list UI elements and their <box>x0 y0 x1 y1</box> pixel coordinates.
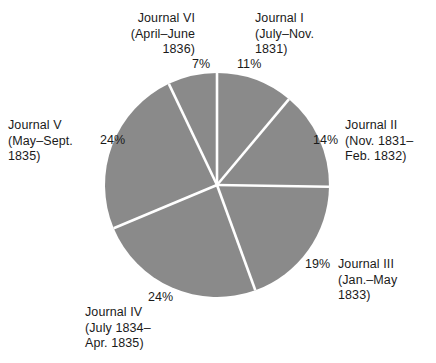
slice-label-date-line1: (July 1834– <box>85 321 205 337</box>
slice-label-name: Journal V <box>8 118 103 134</box>
pie-chart-figure: Journal VI (April–June 1836) 7% Journal … <box>0 0 436 363</box>
slice-label-name: Journal IV <box>85 305 205 321</box>
slice-percent-journal-v: 24% <box>100 133 125 149</box>
pie-divider <box>217 185 329 187</box>
slice-label-name: Journal III <box>338 257 434 273</box>
slice-label-date-line1: (Nov. 1831– <box>345 134 435 150</box>
slice-label-journal-iv: Journal IV (July 1834– Apr. 1835) <box>85 305 205 352</box>
slice-percent-journal-i: 11% <box>237 57 261 73</box>
slice-label-journal-ii: Journal II (Nov. 1831– Feb. 1832) <box>345 118 435 165</box>
slice-label-date-line1: (May–Sept. <box>8 134 103 150</box>
slice-label-date-line1: (July–Nov. <box>255 27 385 43</box>
slice-label-date-line2: Apr. 1835) <box>85 336 205 352</box>
slice-label-date-line1: (April–June <box>50 27 195 43</box>
slice-percent-journal-iii: 19% <box>305 257 330 273</box>
slice-label-journal-v: Journal V (May–Sept. 1835) <box>8 118 103 165</box>
slice-label-date-line2: Feb. 1832) <box>345 149 435 165</box>
slice-label-date-line2: 1833) <box>338 288 434 304</box>
slice-label-date-line2: 1836) <box>50 42 195 58</box>
slice-label-name: Journal VI <box>50 11 195 27</box>
slice-percent-journal-vi: 7% <box>192 57 210 73</box>
slice-label-name: Journal II <box>345 118 435 134</box>
slice-label-journal-vi: Journal VI (April–June 1836) <box>50 11 195 58</box>
slice-label-journal-i: Journal I (July–Nov. 1831) <box>255 11 385 58</box>
slice-label-journal-iii: Journal III (Jan.–May 1833) <box>338 257 434 304</box>
slice-percent-journal-ii: 14% <box>313 133 338 149</box>
slice-label-date-line1: (Jan.–May <box>338 273 434 289</box>
slice-label-date-line2: 1835) <box>8 149 103 165</box>
slice-label-date-line2: 1831) <box>255 42 385 58</box>
slice-percent-journal-iv: 24% <box>148 290 173 306</box>
slice-label-name: Journal I <box>255 11 385 27</box>
